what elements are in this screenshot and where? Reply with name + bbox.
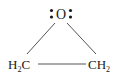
lone-pair-right [69,9,72,19]
bond-o-right [67,23,96,54]
structure-diagram: O H2C CH2 [0,0,122,74]
left-carbon: H2C [8,57,30,74]
bond-o-left [27,23,55,54]
right-carbon: CH2 [88,57,110,74]
lone-pair-left [50,9,53,19]
oxygen-atom: O [56,7,66,22]
